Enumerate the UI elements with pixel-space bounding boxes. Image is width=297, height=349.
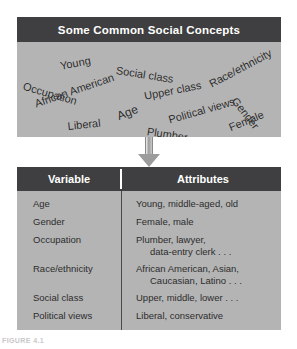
cloud-word: Plumber — [146, 125, 188, 137]
cell-attributes: Upper, middle, lower . . . — [136, 292, 238, 304]
cell-variable: Social class — [33, 292, 83, 304]
concepts-title-bar: Some Common Social Concepts — [17, 17, 281, 42]
cloud-word: Race/ethnicity — [207, 47, 274, 90]
cell-attributes: Female, male — [136, 216, 194, 228]
cloud-word: Social class — [115, 64, 174, 85]
attribute-line: African American, Asian, — [136, 263, 242, 275]
table-body: AgeYoung, middle-aged, oldGenderFemale, … — [17, 191, 281, 330]
cloud-word: Age — [115, 102, 140, 123]
attribute-line: data-entry clerk . . . — [136, 246, 231, 258]
cell-variable: Age — [33, 198, 50, 210]
attribute-line: Upper, middle, lower . . . — [136, 292, 238, 304]
social-concepts-panel: Some Common Social Concepts YoungSocial … — [17, 17, 281, 137]
cell-attributes: Plumber, lawyer,data-entry clerk . . . — [136, 234, 231, 257]
concepts-title: Some Common Social Concepts — [58, 24, 240, 36]
cell-attributes: Liberal, conservative — [136, 310, 223, 322]
column-header-attributes: Attributes — [125, 167, 281, 191]
down-arrow-icon — [138, 137, 160, 167]
cloud-word: Young — [59, 54, 92, 72]
cell-variable: Gender — [33, 216, 65, 228]
header-column-divider — [120, 169, 122, 189]
attribute-line: Young, middle-aged, old — [136, 198, 238, 210]
cell-variable: Race/ethnicity — [33, 263, 93, 275]
cell-attributes: Young, middle-aged, old — [136, 198, 238, 210]
cell-attributes: African American, Asian,Caucasian, Latin… — [136, 263, 242, 286]
attribute-line: Plumber, lawyer, — [136, 234, 231, 246]
attribute-line: Caucasian, Latino . . . — [136, 275, 242, 287]
concepts-word-cloud: YoungSocial classRace/ethnicityOccupatio… — [17, 42, 281, 137]
attribute-line: Female, male — [136, 216, 194, 228]
cloud-word: Liberal — [67, 117, 101, 132]
table-header-row: Variable Attributes — [17, 167, 281, 191]
arrow-shaft — [145, 137, 153, 155]
cell-variable: Political views — [33, 310, 92, 322]
attribute-line: Liberal, conservative — [136, 310, 223, 322]
cloud-word: Political views — [167, 95, 236, 125]
figure-caption: FIGURE 4.1 — [2, 337, 142, 347]
cell-variable: Occupation — [33, 234, 81, 246]
column-header-variable: Variable — [17, 167, 121, 191]
arrow-head — [138, 154, 160, 167]
variables-attributes-table: Variable Attributes AgeYoung, middle-age… — [17, 167, 281, 330]
